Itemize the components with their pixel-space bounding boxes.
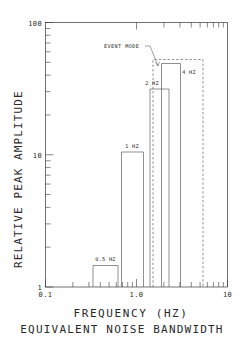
event-mode-annotation: EVENT MODE [104,43,139,49]
y-axis-ticks [46,23,54,288]
bar-label-1hz: 1 HZ [125,143,139,149]
plot-frame [46,23,228,288]
bar-label-4hz: 4 HZ [182,69,196,75]
bar-label-2hz: 2 HZ [145,80,159,86]
x-axis-ticks [46,23,228,288]
x-tick-label-0-1: 0.1 [39,291,53,299]
chart-figure: RELATIVE PEAK AMPLITUDE [0,0,245,345]
y-tick-label-100: 100 [28,20,42,28]
x-tick-label-1-0: 1.0 [130,291,144,299]
bar-1hz [122,152,144,287]
y-axis-title: RELATIVE PEAK AMPLITUDE [12,90,25,268]
x-axis-title: FREQUENCY (HZ) [73,307,188,320]
x-axis-subtitle: EQUIVALENT NOISE BANDWIDTH [20,323,223,336]
bar-label-0-5hz: 0.5 HZ [95,256,116,262]
bar-0-5hz [93,266,118,288]
bar-4hz [162,64,181,288]
y-tick-label-10: 10 [33,152,42,160]
event-mode-overlay-box [153,60,203,288]
noise-bandwidth-chart: RELATIVE PEAK AMPLITUDE [0,0,245,345]
x-tick-label-10: 10 [223,291,232,299]
event-mode-arrowhead-icon [156,62,160,66]
